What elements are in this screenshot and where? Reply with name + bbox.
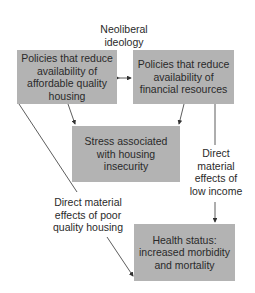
edge-label-poor-housing: Direct material effects of poor quality …: [48, 196, 128, 234]
node-financial-policy: Policies that reduce availability of fin…: [133, 50, 234, 104]
neoliberal-ideology-label: Neoliberal ideology: [92, 23, 156, 48]
node-stress: Stress associated with housing insecurit…: [72, 126, 180, 182]
node-housing-policy-text: Policies that reduce availability of aff…: [19, 52, 115, 102]
node-housing-policy: Policies that reduce availability of aff…: [17, 50, 117, 104]
node-health: Health status: increased morbidity and m…: [134, 224, 235, 281]
arrow-financial-to-stress: [179, 104, 184, 124]
arrow-poor-housing-to-health: [107, 237, 133, 276]
arrow-housing-to-stress: [68, 104, 75, 124]
node-health-text: Health status: increased morbidity and m…: [136, 234, 233, 272]
edge-label-low-income: Direct material effects of low income: [186, 147, 246, 197]
node-financial-policy-text: Policies that reduce availability of fin…: [135, 58, 232, 96]
node-stress-text: Stress associated with housing insecurit…: [78, 135, 174, 173]
diagram-canvas: Neoliberal ideology Policies that reduce…: [0, 0, 255, 293]
line-housing-diagonal: [19, 104, 77, 192]
